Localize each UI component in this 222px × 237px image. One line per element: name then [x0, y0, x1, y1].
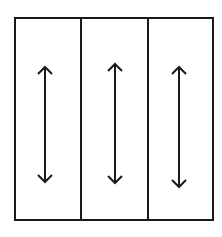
three-panel-diagram: [0, 0, 222, 237]
double-arrow-icon-panel-3: [172, 67, 186, 187]
double-arrow-icon-panel-2: [108, 64, 122, 183]
double-arrow-icon-panel-1: [38, 67, 52, 182]
diagram-canvas: [0, 0, 222, 237]
